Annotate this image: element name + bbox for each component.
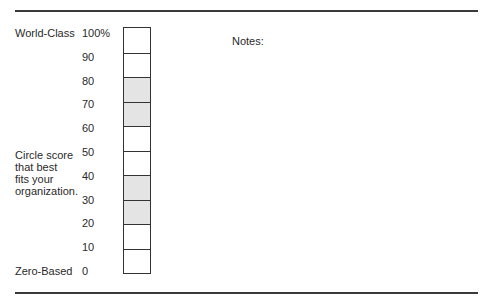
scale-cell[interactable] (124, 77, 150, 102)
scale-cell[interactable] (124, 200, 150, 225)
zero-based-label: Zero-Based (15, 265, 72, 277)
notes-label: Notes: (232, 35, 264, 47)
instruction-line: fits your (15, 173, 85, 185)
tick-label: 90 (82, 51, 94, 63)
bottom-rule (15, 292, 478, 294)
instruction-line: Circle score (15, 149, 85, 161)
tick-label: 60 (82, 122, 94, 134)
tick-label: 0 (82, 265, 88, 277)
scale-cell[interactable] (124, 249, 150, 274)
scale-cell[interactable] (124, 28, 150, 53)
instruction-text: Circle score that best fits your organiz… (15, 149, 85, 197)
instruction-line: organization. (15, 185, 85, 197)
instruction-line: that best (15, 161, 85, 173)
score-scale (123, 27, 151, 274)
scale-cell[interactable] (124, 175, 150, 200)
scale-cell[interactable] (124, 53, 150, 78)
scale-cell[interactable] (124, 126, 150, 151)
tick-label: 30 (82, 194, 94, 206)
top-rule (15, 10, 478, 12)
tick-label: 50 (82, 146, 94, 158)
tick-label: 10 (82, 241, 94, 253)
scale-cell[interactable] (124, 224, 150, 249)
scale-cell[interactable] (124, 151, 150, 176)
tick-label: 100% (82, 27, 110, 39)
world-class-label: World-Class (15, 27, 75, 39)
scale-cell[interactable] (124, 102, 150, 127)
tick-label: 80 (82, 75, 94, 87)
tick-label: 40 (82, 170, 94, 182)
tick-label: 70 (82, 98, 94, 110)
tick-label: 20 (82, 217, 94, 229)
